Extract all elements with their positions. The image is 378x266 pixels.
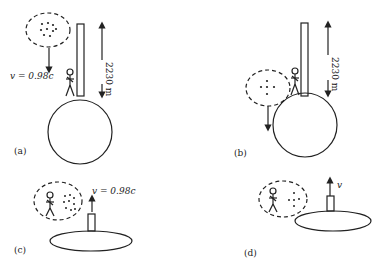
panel-d	[259, 180, 371, 231]
panel-label-d: (d)	[244, 248, 257, 258]
muon-dots-d	[288, 192, 300, 207]
height-label-b: 2230 m	[330, 57, 340, 92]
mountain-c	[88, 214, 95, 231]
muon-frame-c	[34, 182, 82, 220]
muon-cloud-b	[246, 70, 290, 106]
velocity-label-c: v = 0.98c	[92, 186, 135, 196]
panel-label-a: (a)	[14, 146, 26, 156]
mountain-tower-b	[301, 23, 308, 96]
muon-cloud-a	[26, 13, 70, 47]
muon-dots-c	[63, 194, 76, 211]
observer-figure-a	[66, 69, 74, 96]
panel-a	[26, 13, 112, 164]
earth-d	[295, 211, 371, 231]
muon-dots-b	[260, 80, 275, 95]
panel-label-c: (c)	[14, 245, 26, 255]
earth-a	[48, 100, 112, 164]
observer-figure-b	[291, 68, 299, 95]
observer-figure-c	[46, 192, 54, 216]
muon-dots-a	[40, 22, 57, 37]
velocity-label-a: v = 0.98c	[10, 71, 53, 81]
mountain-d	[327, 196, 334, 211]
panel-label-b: (b)	[234, 148, 247, 158]
earth-b	[273, 93, 337, 157]
observer-figure-d	[269, 188, 277, 212]
velocity-label-d: v	[337, 180, 342, 190]
panel-b	[246, 23, 337, 157]
mountain-tower-a	[77, 24, 84, 96]
relativity-figure: v = 0.98c 2230 m (a) 2230 m (b)	[0, 0, 378, 266]
height-label-a: 2230 m	[104, 62, 114, 97]
earth-c	[50, 231, 132, 251]
